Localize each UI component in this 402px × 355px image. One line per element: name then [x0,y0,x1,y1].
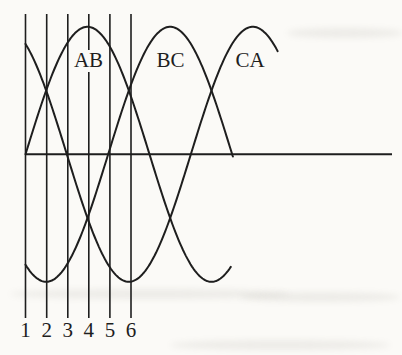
scanned-waveform-figure: AB BC CA 1 2 3 4 5 6 [0,0,402,355]
three-phase-line-voltage-chart: AB BC CA 1 2 3 4 5 6 [0,0,402,355]
curve-label-bc: BC [156,48,184,72]
tick-label-2: 2 [41,318,52,342]
tick-label-1: 1 [20,318,31,342]
tick-label-3: 3 [63,318,74,342]
tick-label-5: 5 [105,318,116,342]
curve-label-ab: AB [74,48,103,72]
tick-labels: 1 2 3 4 5 6 [20,318,136,342]
tick-label-6: 6 [126,318,137,342]
curve-labels: AB BC CA [72,48,268,72]
curve-label-ca: CA [235,48,265,72]
tick-label-4: 4 [84,318,95,342]
